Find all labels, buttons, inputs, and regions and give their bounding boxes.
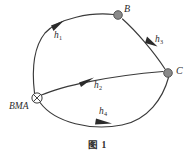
node-dot-b xyxy=(114,11,123,20)
edge-label-h4-sub: 4 xyxy=(104,110,107,117)
edge-label-h1-sub: 1 xyxy=(59,34,62,41)
node-label-bma: BMA xyxy=(9,102,29,112)
figure-container: h1 h2 h3 h4 B C BMA 图 1 xyxy=(0,0,195,157)
flow-diagram-canvas xyxy=(0,0,195,157)
arrowhead-h4 xyxy=(95,119,112,125)
edge-label-h2: h2 xyxy=(94,81,102,91)
node-label-b: B xyxy=(124,4,130,14)
arrowhead-h2 xyxy=(79,78,94,88)
edge-path-h2 xyxy=(42,72,164,96)
figure-caption: 图 1 xyxy=(0,137,195,151)
edge-path-h4 xyxy=(40,78,169,127)
edge-label-h1: h1 xyxy=(54,31,62,41)
edge-label-h4: h4 xyxy=(99,107,107,117)
node-label-c: C xyxy=(176,66,183,76)
node-dot-c xyxy=(164,69,173,78)
edge-label-h3: h3 xyxy=(155,35,163,45)
edge-label-h3-sub: 3 xyxy=(160,38,163,45)
edge-label-h2-sub: 2 xyxy=(99,84,102,91)
